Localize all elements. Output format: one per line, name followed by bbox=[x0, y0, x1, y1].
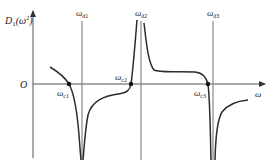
asymptote-d1-label: ωd1 bbox=[76, 8, 88, 19]
zero-crossing-c2-dot bbox=[129, 82, 133, 86]
origin-label: O bbox=[20, 79, 27, 90]
curve-branch-1 bbox=[50, 67, 81, 160]
zero-crossing-c3-dot bbox=[206, 82, 210, 86]
diagram-canvas: D1(ω2) O ω ωd1 ωd2 ωd3 ωc1 ωc2 ωc3 bbox=[0, 0, 274, 162]
x-axis-label: ω bbox=[255, 89, 261, 99]
zero-crossing-c1-label: ωc1 bbox=[57, 88, 69, 99]
zero-crossing-c3-label: ωc3 bbox=[194, 88, 206, 99]
curve-branch-2 bbox=[83, 20, 137, 160]
curve-branch-4 bbox=[215, 100, 248, 160]
y-axis-label: D1(ω2) bbox=[4, 15, 33, 28]
zero-crossing-c1-dot bbox=[67, 82, 71, 86]
dispersion-diagram: D1(ω2) O ω ωd1 ωd2 ωd3 ωc1 ωc2 ωc3 bbox=[0, 0, 274, 162]
curve-branch-3 bbox=[144, 23, 211, 160]
zero-crossing-c2-label: ωc2 bbox=[115, 72, 127, 83]
asymptote-d3-label: ωd3 bbox=[207, 8, 219, 19]
asymptote-d2-label: ωd2 bbox=[135, 8, 147, 19]
